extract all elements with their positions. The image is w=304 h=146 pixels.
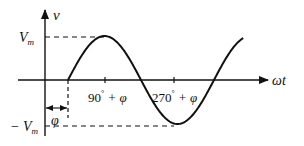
peak-label: Vm	[19, 30, 35, 47]
trough-label: − Vm	[10, 119, 39, 136]
sine-wave-diagram: v ωt Vm − Vm φ 90° + φ 270° + φ	[0, 0, 304, 146]
tick-label-90: 90° + φ	[88, 89, 127, 105]
x-axis-label: ωt	[272, 73, 287, 88]
y-axis-label: v	[53, 7, 60, 23]
phase-label: φ	[51, 113, 59, 128]
tick-label-270: 270° + φ	[152, 89, 197, 105]
